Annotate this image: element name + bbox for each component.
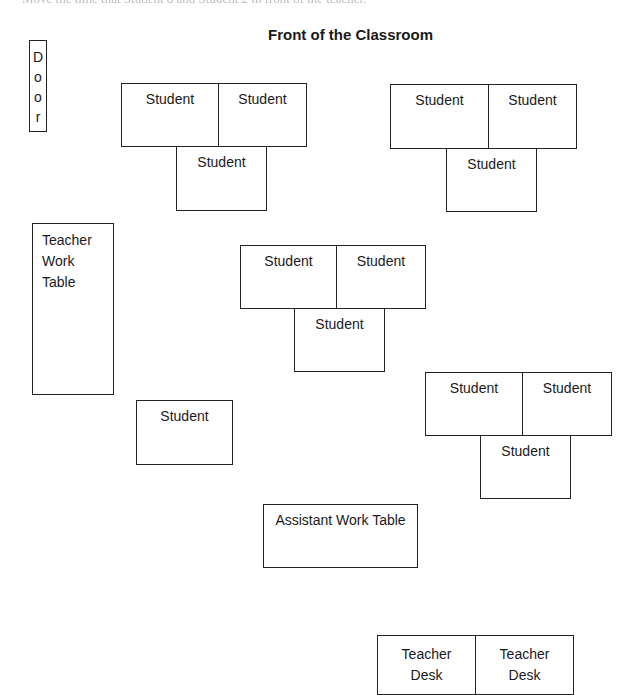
door-label: D o o r: [30, 47, 46, 127]
label-line: Teacher: [42, 230, 113, 251]
assistant-work-table: Assistant Work Table: [263, 504, 418, 568]
teacher-work-table: Teacher Work Table: [32, 223, 114, 395]
seat-label: Student: [391, 92, 488, 108]
label-line: Table: [42, 272, 113, 293]
seat-label: Student: [137, 408, 232, 424]
student-seat: Student: [390, 84, 489, 149]
assistant-work-table-label: Assistant Work Table: [264, 512, 417, 528]
label-line: Teacher: [378, 644, 475, 665]
student-seat: Student: [522, 372, 612, 436]
door-letter: o: [30, 87, 46, 107]
seat-label: Student: [523, 380, 611, 396]
teacher-desk: Teacher Desk: [475, 635, 574, 695]
student-seat: Student: [488, 84, 577, 149]
student-seat: Student: [425, 372, 523, 436]
seat-label: Student: [489, 92, 576, 108]
page-title: Front of the Classroom: [268, 26, 433, 43]
student-seat: Student: [176, 146, 267, 211]
teacher-work-table-label: Teacher Work Table: [42, 230, 113, 293]
teacher-desk: Teacher Desk: [377, 635, 476, 695]
seat-label: Student: [426, 380, 522, 396]
seat-label: Student: [447, 156, 536, 172]
seat-label: Student: [177, 154, 266, 170]
seat-label: Student: [481, 443, 570, 459]
teacher-desk-label: Teacher Desk: [378, 644, 475, 686]
student-seat: Student: [446, 148, 537, 212]
student-seat: Student: [480, 435, 571, 499]
seat-label: Student: [219, 91, 306, 107]
label-line: Desk: [378, 665, 475, 686]
door: D o o r: [29, 40, 47, 132]
seat-label: Student: [295, 316, 384, 332]
student-seat: Student: [121, 83, 219, 147]
door-letter: o: [30, 67, 46, 87]
student-seat: Student: [336, 245, 426, 309]
door-letter: D: [30, 47, 46, 67]
student-seat: Student: [240, 245, 337, 309]
single-student-seat: Student: [136, 400, 233, 465]
seat-label: Student: [241, 253, 336, 269]
cutoff-instruction-text: Move the time that Student 8 and Student…: [22, 0, 442, 7]
teacher-desk-label: Teacher Desk: [476, 644, 573, 686]
student-seat: Student: [218, 83, 307, 147]
label-line: Teacher: [476, 644, 573, 665]
label-line: Desk: [476, 665, 573, 686]
door-letter: r: [30, 107, 46, 127]
seat-label: Student: [337, 253, 425, 269]
label-line: Work: [42, 251, 113, 272]
seat-label: Student: [122, 91, 218, 107]
student-seat: Student: [294, 308, 385, 372]
